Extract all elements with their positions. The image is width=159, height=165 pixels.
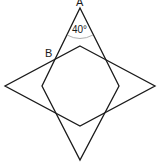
horizontal-rhombus: [5, 46, 155, 126]
angle-label: 40°: [72, 24, 87, 35]
label-b: B: [45, 47, 52, 59]
label-a: A: [76, 0, 84, 8]
star-diagram: A B 40°: [0, 0, 159, 165]
angle-arc: [67, 35, 93, 39]
